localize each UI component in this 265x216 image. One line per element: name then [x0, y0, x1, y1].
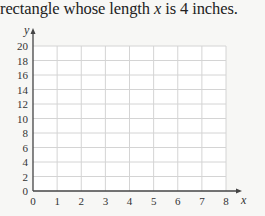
y-axis-label: y — [23, 23, 30, 37]
x-tick-label: 0 — [30, 195, 36, 207]
coordinate-grid-chart: 01234567802468101214161820xy — [0, 0, 265, 216]
x-tick-label: 8 — [223, 195, 229, 207]
y-axis-arrow-icon — [31, 28, 36, 34]
x-tick-label: 6 — [175, 195, 181, 207]
x-tick-label: 3 — [103, 195, 109, 207]
y-tick-label: 14 — [17, 84, 29, 96]
y-tick-label: 16 — [17, 69, 29, 81]
x-axis-label: x — [240, 193, 247, 207]
x-tick-label: 7 — [199, 195, 205, 207]
y-tick-label: 8 — [23, 127, 29, 139]
y-tick-label: 4 — [23, 156, 29, 168]
y-tick-label: 10 — [17, 113, 29, 125]
y-tick-label: 6 — [23, 142, 29, 154]
y-tick-label: 0 — [23, 185, 29, 197]
y-tick-label: 12 — [17, 98, 28, 110]
x-tick-label: 1 — [54, 195, 60, 207]
y-tick-label: 2 — [23, 171, 29, 183]
x-tick-label: 5 — [151, 195, 157, 207]
y-tick-label: 18 — [17, 55, 29, 67]
x-tick-label: 2 — [79, 195, 85, 207]
x-tick-label: 4 — [127, 195, 133, 207]
y-tick-label: 20 — [17, 40, 29, 52]
